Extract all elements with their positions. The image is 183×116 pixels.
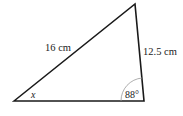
angle-label-x: x [30, 89, 36, 100]
triangle-diagram: 16 cm 12.5 cm x 88° [0, 0, 183, 116]
angle-label-88: 88° [125, 89, 139, 100]
side-label-12-5cm: 12.5 cm [143, 46, 177, 57]
side-label-16cm: 16 cm [45, 42, 71, 53]
triangle [14, 4, 144, 101]
